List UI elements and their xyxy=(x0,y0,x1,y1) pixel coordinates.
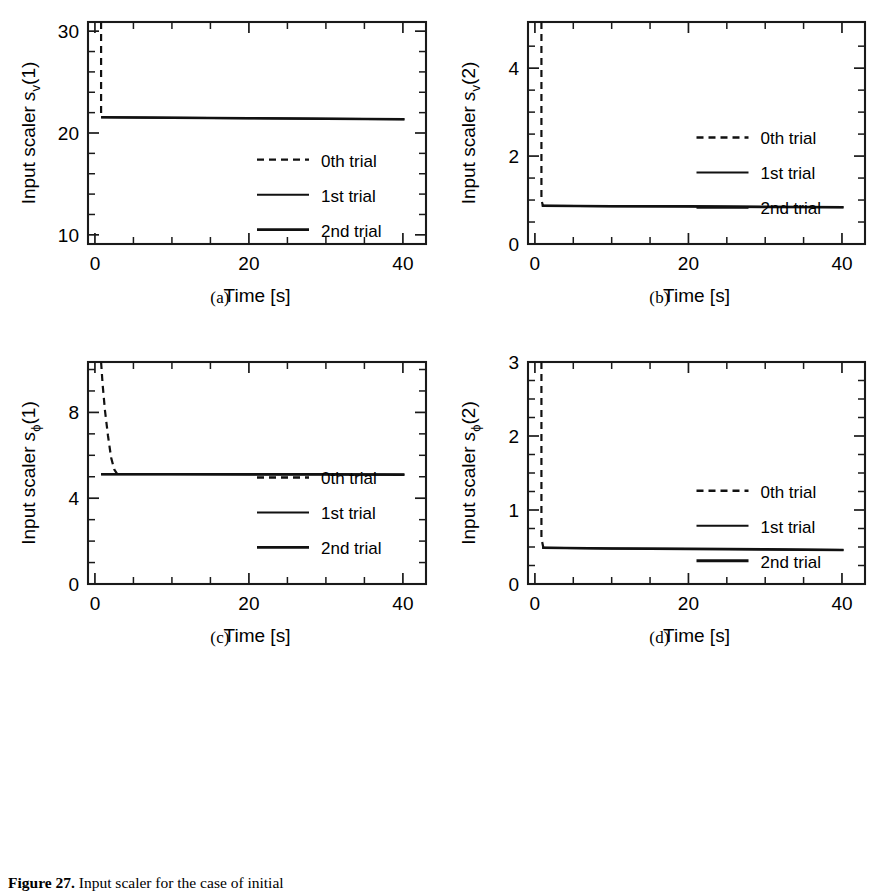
plot-frame xyxy=(88,22,426,244)
caption-text: Input scaler for the case of initial xyxy=(79,874,284,891)
y-tick-label: 8 xyxy=(68,402,79,423)
y-tick-label: 2 xyxy=(508,146,519,167)
x-tick-label: 20 xyxy=(678,593,699,614)
x-tick-label: 0 xyxy=(530,593,541,614)
y-tick-label: 2 xyxy=(508,426,519,447)
legend-label: 0th trial xyxy=(321,469,377,488)
panel-letter-d: (d) xyxy=(440,628,879,648)
panel-b: 02402040Time [s]Input scaler sv(2)0th tr… xyxy=(440,0,879,340)
caption-label: Figure 27. xyxy=(8,874,75,891)
legend-label: 1st trial xyxy=(761,518,816,537)
svg-text:Input scaler sv(2): Input scaler sv(2) xyxy=(458,62,483,205)
chart-a: 10203002040Time [s]Input scaler sv(1)0th… xyxy=(0,0,440,312)
chart-b: 02402040Time [s]Input scaler sv(2)0th tr… xyxy=(440,0,879,312)
x-tick-label: 40 xyxy=(831,253,852,274)
legend-label: 1st trial xyxy=(761,164,816,183)
panel-letter-c: (c) xyxy=(0,628,440,648)
x-tick-label: 40 xyxy=(392,253,413,274)
x-tick-label: 40 xyxy=(831,593,852,614)
y-tick-label: 30 xyxy=(58,21,79,42)
y-axis-title: Input scaler sv(1) xyxy=(18,62,43,205)
svg-text:Input scaler sϕ(1): Input scaler sϕ(1) xyxy=(18,401,43,545)
x-tick-label: 20 xyxy=(678,253,699,274)
y-tick-label: 0 xyxy=(508,574,519,595)
y-tick-label: 3 xyxy=(508,352,519,373)
legend-label: 2nd trial xyxy=(321,222,381,241)
panel-c: 04802040Time [s]Input scaler sϕ(1)0th tr… xyxy=(0,340,440,680)
legend: 0th trial1st trial2nd trial xyxy=(697,483,821,572)
x-tick-label: 0 xyxy=(90,253,101,274)
legend: 0th trial1st trial2nd trial xyxy=(257,152,381,241)
y-tick-label: 20 xyxy=(58,123,79,144)
svg-text:Input scaler sϕ(2): Input scaler sϕ(2) xyxy=(458,401,483,545)
x-tick-label: 40 xyxy=(392,593,413,614)
y-axis-title: Input scaler sϕ(1) xyxy=(18,401,43,545)
x-tick-label: 0 xyxy=(530,253,541,274)
x-tick-label: 20 xyxy=(238,253,259,274)
legend-label: 1st trial xyxy=(321,187,376,206)
y-axis-title: Input scaler sv(2) xyxy=(458,62,483,205)
panel-d: 012302040Time [s]Input scaler sϕ(2)0th t… xyxy=(440,340,879,680)
legend-label: 2nd trial xyxy=(761,199,821,218)
chart-c: 04802040Time [s]Input scaler sϕ(1)0th tr… xyxy=(0,340,440,652)
x-tick-label: 0 xyxy=(90,593,101,614)
panel-a: 10203002040Time [s]Input scaler sv(1)0th… xyxy=(0,0,440,340)
legend-label: 0th trial xyxy=(761,483,817,502)
legend-label: 0th trial xyxy=(321,152,377,171)
y-tick-label: 0 xyxy=(68,574,79,595)
y-tick-label: 1 xyxy=(508,500,519,521)
legend: 0th trial1st trial2nd trial xyxy=(257,469,381,558)
y-tick-label: 4 xyxy=(68,488,79,509)
panel-letter-b: (b) xyxy=(440,288,879,308)
y-tick-label: 4 xyxy=(508,58,519,79)
y-tick-label: 10 xyxy=(58,225,79,246)
chart-d: 012302040Time [s]Input scaler sϕ(2)0th t… xyxy=(440,340,879,652)
legend-label: 0th trial xyxy=(761,129,817,148)
svg-text:Input scaler sv(1): Input scaler sv(1) xyxy=(18,62,43,205)
legend-label: 2nd trial xyxy=(761,553,821,572)
series-line xyxy=(542,548,843,550)
series-line xyxy=(541,362,543,548)
figure-caption: Figure 27. Input scaler for the case of … xyxy=(8,873,871,892)
legend-label: 2nd trial xyxy=(321,539,381,558)
series-line xyxy=(101,117,404,119)
y-axis-title: Input scaler sϕ(2) xyxy=(458,401,483,545)
x-tick-label: 20 xyxy=(238,593,259,614)
panel-letter-a: (a) xyxy=(0,288,440,308)
series-line xyxy=(101,362,117,474)
legend-label: 1st trial xyxy=(321,504,376,523)
y-tick-label: 0 xyxy=(508,234,519,255)
series-line xyxy=(541,22,543,206)
legend: 0th trial1st trial2nd trial xyxy=(697,129,821,218)
